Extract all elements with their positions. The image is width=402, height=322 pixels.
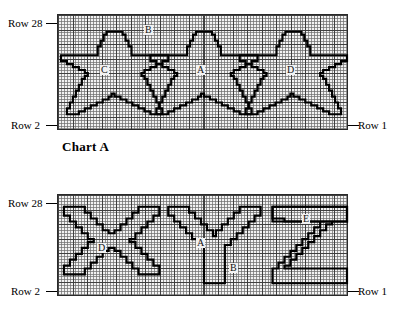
chart-a-row-label-top: Row 28 <box>8 18 43 29</box>
chart-b-leader-top <box>46 203 57 204</box>
chart-b-annotation-e: E <box>302 214 310 224</box>
chart-b-leader-bottom <box>46 291 57 292</box>
chart-a-figure: Row 28 Row 2 Row 1 Chart A C B A D <box>0 0 402 160</box>
chart-b-annotation-b: B <box>229 263 238 273</box>
chart-b-row-label-bottom: Row 2 <box>11 286 40 297</box>
chart-a-leader-right <box>348 125 359 126</box>
chart-b-annotation-a: A <box>196 238 205 248</box>
chart-a-annotation-d: D <box>286 65 295 75</box>
chart-a-row-label-bottom: Row 2 <box>11 120 40 131</box>
chart-b-row-label-right: Row 1 <box>358 286 387 297</box>
star-motif-left <box>61 32 168 115</box>
letter-x-motif <box>64 207 159 275</box>
chart-a-caption: Chart A <box>62 140 109 153</box>
chart-a-annotation-b: B <box>144 25 153 35</box>
chart-a-leader-top <box>46 23 57 24</box>
chart-a-leader-bottom <box>46 125 57 126</box>
chart-a-row-label-right: Row 1 <box>358 120 387 131</box>
chart-a-annotation-a: A <box>196 65 205 75</box>
chart-b-leader-right <box>348 291 359 292</box>
letter-y-motif <box>168 207 260 283</box>
chart-b-row-label-top: Row 28 <box>8 198 43 209</box>
chart-a-annotation-c: C <box>100 65 109 75</box>
chart-b-annotation-d: D <box>97 243 106 253</box>
chart-b-figure: Row 28 Row 2 Row 1 D A B E <box>0 180 402 322</box>
